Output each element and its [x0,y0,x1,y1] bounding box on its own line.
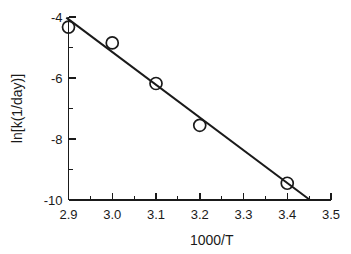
x-tick-label: 3.4 [278,207,296,222]
y-axis-title: ln[k(1/day)] [9,74,25,143]
data-point-markers [63,21,294,189]
arrhenius-chart: 2.93.03.13.23.33.43.5 -4-6-8-10 1000/T l… [0,0,351,254]
x-axis-major-ticks [69,193,332,200]
regression-line [66,18,310,200]
data-point-marker [106,37,118,49]
y-axis-tick-labels: -4-6-8-10 [44,10,63,208]
axes-group [69,17,332,200]
x-tick-label: 3.5 [322,207,340,222]
plot-area: 2.93.03.13.23.33.43.5 -4-6-8-10 1000/T l… [0,0,351,254]
x-tick-label: 3.1 [147,207,165,222]
x-tick-label: 3.0 [103,207,121,222]
y-tick-label: -6 [51,71,63,86]
fit-line-group [66,18,310,200]
x-axis-tick-labels: 2.93.03.13.23.33.43.5 [59,207,340,222]
x-axis-title: 1000/T [190,232,234,248]
y-tick-label: -8 [51,132,63,147]
x-tick-label: 2.9 [59,207,77,222]
y-tick-label: -10 [44,193,63,208]
x-tick-label: 3.3 [234,207,252,222]
x-tick-label: 3.2 [191,207,209,222]
data-point-marker [194,119,206,131]
y-tick-label: -4 [51,10,63,25]
